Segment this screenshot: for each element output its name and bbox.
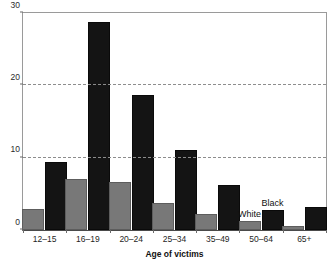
bar-black-16-19 <box>88 22 110 230</box>
y-axis-tick-label: 20 <box>11 73 20 82</box>
x-axis-tick-label: 50–64 <box>249 235 273 244</box>
x-axis-tick-label: 65+ <box>297 235 311 244</box>
x-axis-tick-label: 16–19 <box>76 235 100 244</box>
bar-white-65+ <box>282 226 304 230</box>
gridline-20 <box>23 84 326 85</box>
bar-black-50-64 <box>262 210 284 230</box>
x-tick-mark <box>196 230 197 233</box>
bar-black-25-34 <box>175 150 197 230</box>
y-tick-mark-30 <box>20 12 23 13</box>
y-tick-mark-20 <box>20 84 23 85</box>
x-tick-mark <box>239 230 240 233</box>
x-tick-mark <box>326 230 327 233</box>
series-annotation-white: White <box>238 210 261 219</box>
x-axis-tick-label: 20–24 <box>119 235 143 244</box>
bar-white-50-64 <box>239 221 261 230</box>
x-tick-mark <box>283 230 284 233</box>
y-axis-tick-label: 0 <box>15 217 20 226</box>
x-tick-mark <box>110 230 111 233</box>
y-tick-mark-10 <box>20 156 23 157</box>
bar-white-16-19 <box>65 179 87 230</box>
bar-black-35-49 <box>218 185 240 230</box>
x-axis-tick-label: 35–49 <box>206 235 230 244</box>
bar-white-25-34 <box>152 203 174 230</box>
plot-area: 010203012–1516–1920–2425–3435–4950–6465+… <box>22 12 327 231</box>
bar-white-35-49 <box>195 214 217 230</box>
series-annotation-black: Black <box>262 199 284 208</box>
y-axis-tick-label: 10 <box>11 145 20 154</box>
x-tick-mark <box>66 230 67 233</box>
x-tick-mark <box>23 230 24 233</box>
bar-black-65+ <box>305 207 327 230</box>
y-axis-tick-label: 30 <box>11 0 20 9</box>
bar-black-12-15 <box>45 162 67 230</box>
bar-white-20-24 <box>109 182 131 230</box>
gridline-10 <box>23 157 326 158</box>
x-tick-mark <box>153 230 154 233</box>
bar-chart: 010203012–1516–1920–2425–3435–4950–6465+… <box>0 0 336 268</box>
bar-black-20-24 <box>132 95 154 230</box>
x-axis-title: Age of victims <box>22 250 327 259</box>
x-axis-tick-label: 12–15 <box>33 235 57 244</box>
x-axis-tick-label: 25–34 <box>163 235 187 244</box>
bar-white-12-15 <box>22 209 44 230</box>
